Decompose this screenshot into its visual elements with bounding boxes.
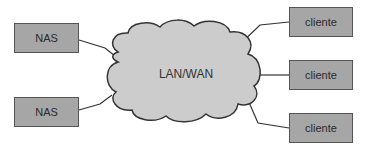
nas-node-label: NAS xyxy=(35,32,58,44)
client-node-3: cliente xyxy=(289,113,353,143)
client-node-2: cliente xyxy=(289,60,353,90)
connector-nas-2 xyxy=(79,95,112,110)
connector-client-3 xyxy=(248,100,289,128)
client-node-label: cliente xyxy=(305,122,337,134)
network-label: LAN/WAN xyxy=(148,67,224,81)
nas-node-2: NAS xyxy=(14,97,79,127)
connector-nas-1 xyxy=(79,40,115,56)
nas-node-1: NAS xyxy=(14,23,79,53)
client-node-label: cliente xyxy=(305,69,337,81)
client-node-1: cliente xyxy=(289,7,353,37)
nas-node-label: NAS xyxy=(35,106,58,118)
client-node-label: cliente xyxy=(305,16,337,28)
